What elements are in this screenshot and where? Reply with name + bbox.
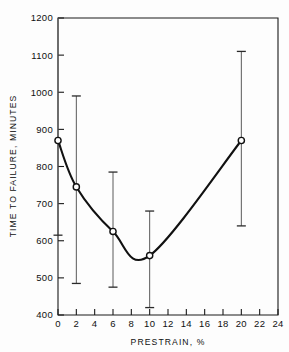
y-tick-label: 700 bbox=[36, 198, 53, 209]
y-tick-label: 400 bbox=[36, 309, 53, 320]
plot-frame bbox=[58, 18, 278, 315]
x-tick-label: 8 bbox=[129, 318, 135, 329]
x-tick-label: 6 bbox=[110, 318, 116, 329]
x-tick-label: 12 bbox=[162, 318, 173, 329]
x-tick-label: 10 bbox=[144, 318, 155, 329]
error-bars bbox=[54, 18, 246, 308]
data-point-marker bbox=[55, 137, 61, 143]
x-axis-tick-labels: 024681012141618202224 bbox=[55, 318, 283, 329]
y-axis-ticks bbox=[58, 18, 64, 315]
data-point-marker bbox=[238, 137, 244, 143]
y-tick-label: 1000 bbox=[31, 87, 53, 98]
y-tick-label: 1200 bbox=[31, 12, 53, 23]
y-tick-label: 600 bbox=[36, 235, 53, 246]
y-axis-tick-labels: 400500600700800900100011001200 bbox=[31, 12, 53, 320]
data-point-marker bbox=[147, 253, 153, 259]
chart-figure: 400500600700800900100011001200 024681012… bbox=[0, 0, 289, 352]
x-tick-label: 22 bbox=[254, 318, 265, 329]
x-tick-label: 4 bbox=[92, 318, 98, 329]
x-axis-ticks bbox=[58, 309, 278, 315]
x-tick-label: 16 bbox=[199, 318, 210, 329]
y-tick-label: 800 bbox=[36, 161, 53, 172]
x-tick-label: 14 bbox=[181, 318, 192, 329]
x-tick-label: 24 bbox=[272, 318, 283, 329]
x-axis-title: PRESTRAIN, % bbox=[131, 337, 206, 347]
data-point-marker bbox=[73, 184, 79, 190]
x-tick-label: 0 bbox=[55, 318, 61, 329]
y-tick-label: 1100 bbox=[31, 50, 53, 61]
x-tick-label: 2 bbox=[74, 318, 80, 329]
data-point-marker bbox=[110, 228, 116, 234]
y-tick-label: 900 bbox=[36, 124, 53, 135]
y-tick-label: 500 bbox=[36, 272, 53, 283]
x-tick-label: 18 bbox=[217, 318, 228, 329]
chart-plot-area: 400500600700800900100011001200 024681012… bbox=[0, 0, 289, 352]
y-axis-title: TIME TO FAILURE, MINUTES bbox=[8, 95, 18, 238]
x-tick-label: 20 bbox=[236, 318, 247, 329]
